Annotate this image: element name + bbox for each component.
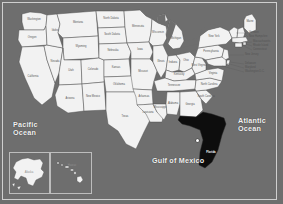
us-map: .st{fill:#f2f2f2;stroke:#4a4a4a;stroke-w… — [0, 0, 283, 204]
state-DE — [226, 60, 230, 65]
state-RI — [243, 42, 246, 45]
alaska-inset — [9, 152, 50, 194]
state-CO — [81, 58, 104, 84]
hawaii-inset — [50, 152, 92, 194]
state-AZ — [55, 84, 84, 113]
state-NE — [99, 43, 131, 60]
state-AL — [166, 92, 180, 115]
state-FL-highlight — [178, 112, 226, 168]
state-WY — [63, 36, 99, 60]
state-SD — [98, 27, 127, 44]
state-ND — [96, 11, 125, 28]
state-NM — [82, 82, 106, 111]
state-MT — [57, 11, 98, 38]
state-ME — [244, 14, 256, 33]
state-WA — [22, 12, 47, 30]
state-IA — [127, 42, 153, 59]
state-KS — [104, 59, 131, 77]
state-MN — [124, 10, 152, 43]
state-CT — [235, 43, 242, 47]
state-MO — [131, 59, 157, 90]
